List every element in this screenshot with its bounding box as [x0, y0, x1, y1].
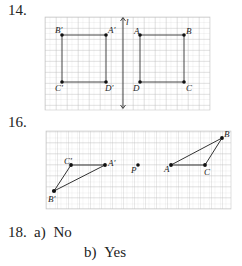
svg-text:P: P	[130, 165, 137, 175]
svg-text:A′: A′	[107, 25, 116, 35]
svg-text:D: D	[132, 83, 140, 93]
svg-text:B: B	[224, 129, 230, 139]
figures: l B′ A′ C′ D′ A B D C C′ A′ B′	[0, 0, 242, 266]
svg-text:A: A	[163, 164, 170, 174]
svg-text:B′: B′	[55, 25, 63, 35]
svg-text:C: C	[204, 167, 211, 177]
svg-text:D′: D′	[104, 83, 114, 93]
svg-text:B′: B′	[48, 194, 56, 204]
svg-text:A: A	[133, 26, 140, 36]
svg-text:C: C	[186, 83, 193, 93]
svg-text:C′: C′	[64, 156, 73, 166]
svg-text:C′: C′	[55, 83, 64, 93]
svg-text:A′: A′	[107, 158, 116, 168]
svg-text:B: B	[186, 26, 192, 36]
